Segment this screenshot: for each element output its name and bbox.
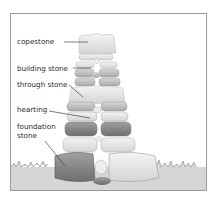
foundation-stone-shape [55,152,95,181]
label-hearting: hearting [17,106,47,114]
ground [11,160,206,190]
through-stone-shape [69,86,125,104]
label-foundation-line1: foundation [17,123,56,131]
label-building-stone: building stone [17,65,68,73]
label-foundation-line2: stone [17,132,37,140]
label-through-stone: through stone [17,81,67,89]
diagram-frame: copestone building stone through stone h… [10,13,207,191]
copestone-shape [79,34,116,55]
label-copestone: copestone [17,38,54,46]
